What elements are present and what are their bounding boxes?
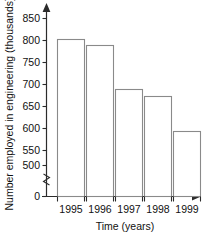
y-axis-group (43, 3, 51, 197)
y-axis-break-icon (44, 174, 50, 185)
bars-group (58, 40, 201, 197)
bar-1996[interactable] (87, 46, 114, 197)
x-tick-label-1999: 1999 (175, 203, 199, 215)
x-axis-title: Time (years) (96, 220, 155, 232)
y-axis-arrow-icon (43, 3, 51, 12)
y-tick-label-700: 700 (22, 78, 40, 90)
bar-1995[interactable] (58, 40, 85, 197)
x-tick-label-1997: 1997 (117, 203, 141, 215)
bar-chart: 850 800 750 700 650 600 550 500 0 (0, 0, 205, 238)
x-tick-label-1995: 1995 (59, 203, 83, 215)
chart-canvas: 850 800 750 700 650 600 550 500 0 (0, 0, 205, 238)
y-tick-label-800: 800 (22, 34, 40, 46)
x-tick-label-1998: 1998 (146, 203, 170, 215)
y-tick-label-550: 550 (22, 144, 40, 156)
bar-1997[interactable] (116, 90, 143, 197)
x-tick-label-1996: 1996 (88, 203, 112, 215)
y-axis-title: Number employed in engineering (thousand… (3, 0, 15, 211)
x-tick-marks (58, 197, 201, 202)
bar-1998[interactable] (145, 97, 172, 197)
bar-1999[interactable] (174, 132, 201, 197)
y-tick-label-600: 600 (22, 122, 40, 134)
y-tick-label-500: 500 (22, 159, 40, 171)
y-tick-label-850: 850 (22, 12, 40, 24)
y-tick-labels: 850 800 750 700 650 600 550 500 0 (22, 12, 40, 202)
y-tick-label-650: 650 (22, 100, 40, 112)
y-tick-label-750: 750 (22, 56, 40, 68)
x-tick-labels: 1995 1996 1997 1998 1999 (59, 203, 199, 215)
y-tick-label-0: 0 (34, 190, 40, 202)
